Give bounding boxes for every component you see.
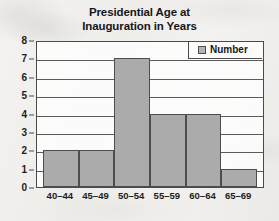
y-tick-label: 6 — [21, 73, 27, 83]
y-tick-label: 1 — [21, 165, 27, 175]
bar — [186, 114, 222, 188]
bars — [37, 42, 263, 187]
bar — [43, 150, 79, 187]
y-tick-label: 3 — [21, 128, 27, 138]
bar — [150, 114, 186, 188]
chart-legend: Number — [188, 42, 262, 59]
y-tick-label: 4 — [21, 110, 27, 120]
y-tick-mark — [29, 151, 34, 152]
y-tick-mark — [29, 96, 34, 97]
bar — [79, 150, 115, 187]
x-axis: 40–4445–4950–5455–5960–6465–69 — [36, 190, 264, 206]
legend-swatch-icon — [198, 46, 206, 54]
y-tick-label: 5 — [21, 91, 27, 101]
x-tick-label: 65–69 — [225, 190, 251, 202]
bar — [114, 58, 150, 187]
x-tick-label: 60–64 — [189, 190, 215, 202]
chart-screenshot: Presidential Age at Inauguration in Year… — [0, 0, 279, 221]
chart-title-line-2: Inauguration in Years — [0, 19, 279, 33]
y-tick-label: 8 — [21, 36, 27, 46]
chart-title-line-1: Presidential Age at — [0, 5, 279, 19]
legend-label: Number — [210, 45, 248, 55]
x-tick-label: 55–59 — [154, 190, 180, 202]
y-tick-mark — [29, 114, 34, 115]
y-axis: 012345678 — [0, 41, 34, 188]
bar — [221, 169, 257, 187]
x-tick-label: 50–54 — [118, 190, 144, 202]
y-tick-label: 2 — [21, 146, 27, 156]
y-tick-label: 0 — [21, 183, 27, 193]
y-tick-mark — [29, 41, 34, 42]
y-tick-mark — [29, 188, 34, 189]
x-tick-label: 40–44 — [47, 190, 73, 202]
y-tick-label: 7 — [21, 54, 27, 64]
y-tick-mark — [29, 59, 34, 60]
y-tick-mark — [29, 169, 34, 170]
y-tick-mark — [29, 77, 34, 78]
plot-area — [36, 41, 264, 188]
x-tick-label: 45–49 — [82, 190, 108, 202]
chart-title: Presidential Age at Inauguration in Year… — [0, 5, 279, 33]
y-tick-mark — [29, 132, 34, 133]
